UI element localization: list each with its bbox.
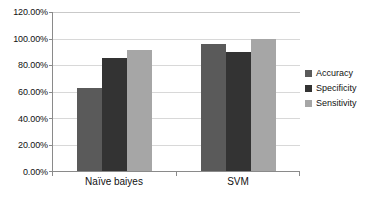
plot-area [52,12,300,172]
bar-chart: 120.00% 100.00% 80.00% 60.00% 40.00% 20.… [0,0,378,200]
legend-label: Sensitivity [316,98,357,108]
y-tick-label: 40.00% [0,115,48,124]
legend-label: Accuracy [316,68,353,78]
bars-layer [52,12,300,172]
y-tick-label: 80.00% [0,61,48,70]
y-tick-label: 0.00% [0,168,48,177]
bar-specificity-na-ve-baiyes [102,58,127,171]
x-category-label: SVM [178,176,298,188]
legend-item[interactable]: Accuracy [305,66,378,80]
legend-swatch-icon [305,70,312,77]
legend-swatch-icon [305,100,312,107]
bar-sensitivity-na-ve-baiyes [127,50,152,171]
legend-item[interactable]: Specificity [305,81,378,95]
legend-swatch-icon [305,85,312,92]
x-category-label: Naïve baiyes [54,176,174,188]
y-axis-tick-labels: 120.00% 100.00% 80.00% 60.00% 40.00% 20.… [0,0,48,200]
x-axis-category-labels: Naïve baiyesSVM [52,176,300,196]
bar-accuracy-svm [201,44,226,171]
legend-label: Specificity [316,83,357,93]
bar-specificity-svm [226,52,251,171]
legend-item[interactable]: Sensitivity [305,96,378,110]
bar-accuracy-na-ve-baiyes [77,88,102,171]
bar-sensitivity-svm [251,39,276,172]
chart-legend: AccuracySpecificitySensitivity [305,66,378,111]
y-tick-label: 100.00% [0,35,48,44]
y-tick-label: 20.00% [0,141,48,150]
y-tick-label: 120.00% [0,8,48,17]
y-tick-label: 60.00% [0,88,48,97]
